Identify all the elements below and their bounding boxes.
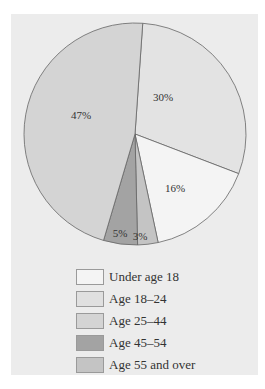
legend-label: Age 25–44 <box>109 313 166 329</box>
slice-label: 30% <box>153 91 173 103</box>
legend-label: Age 18–24 <box>109 291 166 307</box>
legend-item: Age 25–44 <box>76 310 195 332</box>
legend-item: Age 55 and over <box>76 354 195 376</box>
legend-swatch <box>76 313 104 329</box>
legend-swatch <box>76 335 104 351</box>
slice-label: 5% <box>113 227 128 239</box>
slice-label: 3% <box>133 230 148 242</box>
legend-swatch <box>76 357 104 373</box>
legend-swatch <box>76 269 104 285</box>
legend: Under age 18 Age 18–24 Age 25–44 Age 45–… <box>76 266 195 376</box>
slice-label: 16% <box>165 182 185 194</box>
legend-item: Under age 18 <box>76 266 195 288</box>
legend-label: Under age 18 <box>109 269 179 285</box>
pie-chart: 30%16%3%5%47% <box>0 0 265 260</box>
slice-label: 47% <box>71 109 91 121</box>
legend-item: Age 18–24 <box>76 288 195 310</box>
legend-swatch <box>76 291 104 307</box>
legend-label: Age 45–54 <box>109 335 166 351</box>
legend-label: Age 55 and over <box>109 357 195 373</box>
legend-item: Age 45–54 <box>76 332 195 354</box>
